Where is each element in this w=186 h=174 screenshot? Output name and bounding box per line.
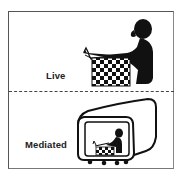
- mediated-label: Mediated: [25, 139, 67, 150]
